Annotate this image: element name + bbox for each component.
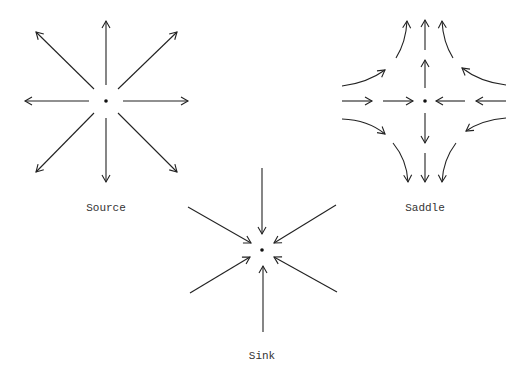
- saddle-portrait: [342, 20, 506, 182]
- sink-arrow-from-upper-right: [274, 205, 336, 243]
- saddle-curve-upper-left-vertical: [396, 21, 407, 58]
- saddle-curve-lower-right-horizontal: [466, 118, 506, 131]
- saddle-equilibrium-point: [423, 99, 427, 103]
- phase-portrait-figure: Source Saddle: [0, 0, 531, 377]
- diagram-svg: Source Saddle: [0, 0, 531, 377]
- source-arrow-lower-left: [36, 113, 94, 172]
- saddle-curve-upper-right-horizontal: [462, 68, 506, 85]
- sink-equilibrium-point: [260, 248, 264, 252]
- saddle-curve-lower-right-vertical: [442, 143, 456, 182]
- source-portrait: [25, 21, 188, 182]
- saddle-curve-upper-right-vertical: [442, 21, 453, 58]
- sink-label: Sink: [249, 350, 276, 362]
- sink-arrow-from-upper-left: [188, 207, 251, 243]
- sink-portrait: [188, 168, 337, 332]
- source-arrow-lower-right: [118, 113, 177, 172]
- source-arrow-upper-right: [118, 32, 177, 89]
- source-label: Source: [86, 202, 126, 214]
- sink-arrow-from-lower-right: [274, 257, 337, 292]
- sink-arrow-from-lower-left: [190, 257, 250, 293]
- source-equilibrium-point: [104, 99, 108, 103]
- source-arrow-upper-left: [36, 32, 94, 89]
- saddle-label: Saddle: [405, 202, 445, 214]
- saddle-curve-lower-left-vertical: [393, 143, 408, 182]
- saddle-curve-lower-left-horizontal: [342, 119, 385, 134]
- saddle-curve-upper-left-horizontal: [342, 70, 385, 86]
